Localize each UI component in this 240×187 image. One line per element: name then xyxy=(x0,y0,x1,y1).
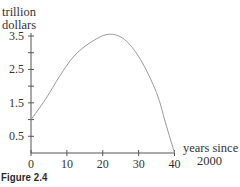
x-tick-label: 0 xyxy=(28,157,34,171)
y-axis-title-line2: dollars xyxy=(2,18,36,32)
x-tick-label: 10 xyxy=(61,157,73,171)
y-axis-title-line1: trillion xyxy=(2,5,37,19)
data-curve xyxy=(31,34,175,153)
y-tick-label: 1.5 xyxy=(9,96,24,110)
y-tick-label: 0.5 xyxy=(9,129,24,143)
y-tick-labels: 0.51.52.53.5 xyxy=(9,29,24,143)
figure-caption: Figure 2.4 xyxy=(1,171,48,183)
x-tick-label: 20 xyxy=(97,157,109,171)
x-axis-title-line1: years since xyxy=(183,141,239,155)
x-tick-label: 30 xyxy=(133,157,145,171)
x-tick-label: 40 xyxy=(169,157,181,171)
x-tick-labels: 010203040 xyxy=(28,157,181,171)
x-axis-title-line2: 2000 xyxy=(197,154,222,168)
y-tick-label: 2.5 xyxy=(9,62,24,76)
chart-canvas: 0.51.52.53.5 010203040 trillion dollars … xyxy=(0,0,240,187)
